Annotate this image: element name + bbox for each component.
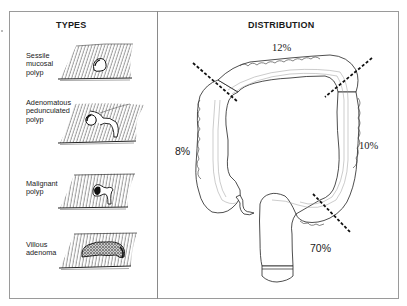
percent-descending: 10% — [359, 140, 378, 151]
percent-ascending: 8% — [175, 145, 190, 157]
appendix — [236, 195, 254, 215]
ascending-colon — [196, 80, 241, 213]
descending-colon — [296, 92, 359, 223]
percent-sigmoid-rectum: 70% — [310, 242, 331, 254]
anal-canal — [262, 266, 293, 282]
sigmoid-rectum — [260, 193, 297, 266]
colon-illustration — [0, 0, 407, 306]
percent-transverse: 12% — [272, 42, 291, 53]
